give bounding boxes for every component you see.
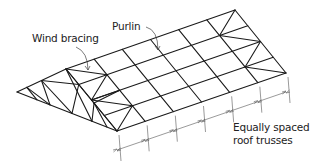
wind-brace (245, 67, 286, 73)
wind-brace (245, 42, 260, 67)
wind-brace (92, 75, 107, 100)
wind-brace (117, 106, 132, 131)
extension-line (119, 135, 121, 161)
wind-brace (92, 90, 120, 100)
extension-line (260, 87, 262, 113)
hip-web (94, 90, 120, 103)
extension-line (204, 106, 206, 132)
wind-brace (220, 10, 235, 36)
wind-brace (220, 36, 261, 42)
hip-web (42, 81, 73, 114)
wind-bracing-leader-arrow (76, 47, 90, 70)
hip-bottom (17, 92, 117, 131)
roof-structure (17, 10, 286, 131)
extension-line (288, 77, 290, 103)
extension-line (232, 96, 234, 122)
extension-line (147, 125, 149, 151)
purlin-label: Purlin (112, 20, 140, 32)
trusses-label-line1: Equally spaced (233, 121, 309, 133)
truss-spacing-dimensions (113, 77, 290, 161)
wind-brace (66, 69, 107, 75)
extension-line (175, 116, 177, 142)
hip-web (92, 103, 94, 121)
wind-bracing-label: Wind bracing (32, 32, 99, 44)
trusses-label-line2: roof trusses (233, 134, 293, 146)
